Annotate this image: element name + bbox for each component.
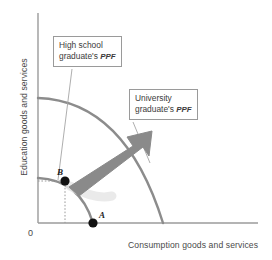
callout-high-school-line2: graduate's PPF	[59, 51, 116, 62]
callout-university-line2: graduate's PPF	[135, 104, 192, 115]
x-axis-label: Consumption goods and services	[128, 240, 258, 250]
callout-university-ppf: University graduate's PPF	[129, 89, 198, 120]
callout-high-school-line2-text: graduate's	[59, 51, 100, 61]
chart-canvas	[0, 0, 272, 260]
leader-line-high-school	[58, 69, 72, 180]
point-A-marker	[88, 218, 97, 227]
callout-high-school-line1: High school	[59, 40, 116, 51]
ppf-figure: Education goods and services Consumption…	[0, 0, 272, 260]
callout-high-school-ppf: High school graduate's PPF	[53, 36, 122, 67]
point-A-label: A	[99, 210, 105, 220]
callout-university-ppf-abbr: PPF	[176, 105, 192, 114]
shift-arrow	[69, 131, 152, 196]
point-B-label: B	[57, 167, 63, 177]
origin-label: 0	[28, 228, 33, 238]
callout-university-line2-text: graduate's	[135, 104, 176, 114]
callout-high-school-ppf-abbr: PPF	[100, 52, 116, 61]
callout-university-line1: University	[135, 93, 192, 104]
y-axis-label: Education goods and services	[19, 37, 29, 197]
point-B-marker	[60, 176, 69, 185]
